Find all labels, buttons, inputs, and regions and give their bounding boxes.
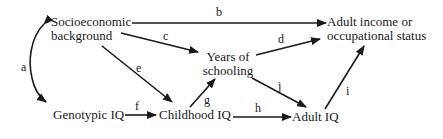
edge-label-c: c <box>163 30 168 42</box>
path-diagram: Socioeconomic background Adult income or… <box>0 0 443 139</box>
node-income-line1: Adult income or <box>327 15 426 29</box>
node-income-line2: occupational status <box>327 29 426 43</box>
node-schooling-line1: Years of <box>200 50 256 64</box>
edge-label-b: b <box>216 6 222 18</box>
edge-d-arrow <box>256 39 320 55</box>
edge-label-h: h <box>255 102 261 114</box>
node-ses-line2: background <box>51 29 131 43</box>
edge-label-g: g <box>204 94 210 106</box>
node-years-of-schooling: Years of schooling <box>200 50 256 78</box>
edge-label-j: j <box>278 80 281 92</box>
node-genotypic-iq: Genotypic IQ <box>53 108 124 122</box>
edge-i-arrow <box>325 46 364 109</box>
edge-label-d: d <box>278 33 284 45</box>
node-adult-income: Adult income or occupational status <box>327 15 426 43</box>
node-socioeconomic-background: Socioeconomic background <box>51 15 131 43</box>
edge-label-f: f <box>135 100 139 112</box>
edge-label-a: a <box>21 61 26 73</box>
edge-label-e: e <box>136 62 141 74</box>
edge-label-i: i <box>346 85 349 97</box>
node-ses-line1: Socioeconomic <box>51 15 131 29</box>
edge-g-arrow <box>190 79 215 107</box>
edge-c-arrow <box>121 33 198 52</box>
node-schooling-line2: schooling <box>200 64 256 78</box>
node-childhood-iq: Childhood IQ <box>159 108 231 122</box>
edge-a-arrow <box>30 24 46 102</box>
node-adult-iq: Adult IQ <box>292 110 339 124</box>
